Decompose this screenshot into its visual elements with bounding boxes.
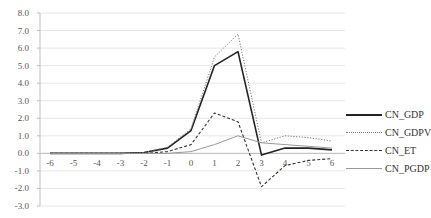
legend-item-cn-pgdp: CN_PGDP	[346, 163, 429, 174]
svg-text:2.0: 2.0	[18, 113, 30, 123]
svg-text:4.0: 4.0	[18, 78, 30, 88]
svg-text:-1.0: -1.0	[15, 166, 30, 176]
legend-item-cn-et: CN_ET	[346, 145, 416, 156]
legend-label: CN_ET	[385, 145, 416, 156]
series-cn-gdp	[50, 52, 332, 156]
svg-text:1: 1	[212, 158, 217, 168]
dotted-line-icon	[346, 132, 382, 133]
svg-text:1.0: 1.0	[18, 131, 30, 141]
svg-text:-2.0: -2.0	[15, 183, 30, 193]
svg-text:-1: -1	[164, 158, 172, 168]
legend-label: CN_GDP	[385, 109, 424, 120]
dashed-line-icon	[346, 150, 382, 151]
svg-text:7.0: 7.0	[18, 26, 30, 36]
svg-text:2: 2	[236, 158, 241, 168]
svg-text:-3: -3	[117, 158, 125, 168]
svg-text:-3.0: -3.0	[15, 201, 30, 211]
y-axis-ticks: 8.07.06.05.04.03.02.01.00.0-1.0-2.0-3.0	[15, 8, 40, 211]
svg-text:-5: -5	[70, 158, 78, 168]
svg-text:0.0: 0.0	[18, 148, 30, 158]
gridlines	[40, 13, 345, 206]
thin-line-icon	[346, 168, 382, 169]
svg-text:6: 6	[330, 158, 335, 168]
series-cn-et	[50, 113, 332, 187]
svg-text:-4: -4	[93, 158, 101, 168]
legend-label: CN_PGDP	[385, 163, 429, 174]
x-axis-ticks: -6-5-4-3-2-10123456	[46, 158, 335, 168]
svg-text:-2: -2	[140, 158, 148, 168]
legend-label: CN_GDPV	[385, 127, 431, 138]
svg-text:0: 0	[189, 158, 194, 168]
svg-text:3: 3	[259, 158, 264, 168]
legend-item-cn-gdp: CN_GDP	[346, 109, 424, 120]
svg-text:6.0: 6.0	[18, 43, 30, 53]
svg-text:8.0: 8.0	[18, 8, 30, 18]
legend-item-cn-gdpv: CN_GDPV	[346, 127, 431, 138]
svg-text:3.0: 3.0	[18, 96, 30, 106]
svg-text:5.0: 5.0	[18, 61, 30, 71]
svg-text:-6: -6	[46, 158, 54, 168]
solid-line-icon	[346, 114, 382, 116]
